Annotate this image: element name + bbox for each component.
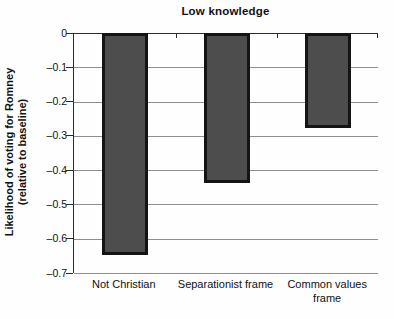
bar-common-values-frame bbox=[305, 33, 351, 129]
y-tick-label: –0.2 bbox=[29, 95, 67, 108]
y-tick-label: –0.3 bbox=[29, 129, 67, 142]
x-tick-mark bbox=[377, 34, 378, 38]
x-category-label: Common valuesframe bbox=[272, 278, 382, 305]
y-tick-mark bbox=[66, 67, 73, 68]
x-tick-mark bbox=[277, 34, 278, 38]
y-tick-mark bbox=[66, 273, 73, 274]
x-category-label-line: Separationist frame bbox=[171, 278, 281, 292]
x-category-label-line: Not Christian bbox=[69, 278, 179, 292]
y-tick-label: –0.7 bbox=[29, 267, 67, 280]
y-tick-label: –0.4 bbox=[29, 164, 67, 177]
y-axis-title-text: Likelihood of voting for Romney (relativ… bbox=[3, 22, 29, 282]
y-axis-title-line-2: (relative to baseline) bbox=[16, 22, 29, 282]
y-axis-title-line-1: Likelihood of voting for Romney bbox=[3, 22, 16, 282]
y-tick-mark bbox=[66, 101, 73, 102]
y-tick-mark bbox=[66, 204, 73, 205]
x-category-label-line: frame bbox=[272, 292, 382, 306]
y-tick-mark bbox=[66, 33, 73, 34]
y-tick-label: 0 bbox=[29, 27, 67, 40]
x-category-label: Separationist frame bbox=[171, 278, 281, 292]
y-tick-mark bbox=[66, 170, 73, 171]
y-tick-label: –0.5 bbox=[29, 198, 67, 211]
plot-area bbox=[73, 33, 378, 273]
chart-title: Low knowledge bbox=[73, 5, 378, 17]
x-tick-mark bbox=[176, 34, 177, 38]
bar-not-christian bbox=[102, 33, 148, 256]
bar-chart-figure: Low knowledge Likelihood of voting for R… bbox=[0, 0, 394, 319]
y-tick-mark bbox=[66, 238, 73, 239]
x-category-label-line: Common values bbox=[272, 278, 382, 292]
y-tick-label: –0.1 bbox=[29, 61, 67, 74]
bar-separationist-frame bbox=[204, 33, 250, 184]
x-category-label: Not Christian bbox=[69, 278, 179, 292]
gridline--0.7 bbox=[74, 273, 378, 274]
y-tick-mark bbox=[66, 135, 73, 136]
y-tick-label: –0.6 bbox=[29, 232, 67, 245]
